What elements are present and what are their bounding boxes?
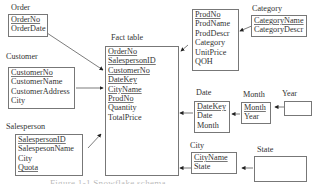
date-field-month: Month: [195, 121, 229, 130]
salesperson-field-salespersonid: SalespersonID: [16, 135, 82, 144]
fact-field-datekey: DateKey: [106, 75, 178, 84]
figure-caption: Figure 1-1 Snowflake schema: [50, 178, 166, 184]
arrow-order-to-fact: [47, 33, 103, 70]
customer-field-customerno: CustomerNo: [9, 68, 74, 77]
fact-field-totalprice: TotalPrice: [106, 113, 178, 122]
order-field-orderno: OrderNo: [9, 15, 47, 24]
fact-field-orderno: OrderNo: [106, 47, 178, 56]
category-field-categorydescr: CategoryDescr: [252, 25, 306, 34]
product-field-proddescr: ProdDescr: [193, 29, 238, 38]
salesperson-title: Salesperson: [6, 122, 45, 131]
order-table: OrderNo OrderDate: [8, 14, 48, 37]
year-title: Year: [282, 89, 297, 98]
category-table: CategoryName CategoryDescr: [251, 15, 307, 37]
month-field-month: Month: [242, 103, 270, 112]
fact-title: Fact table: [111, 33, 143, 42]
fact-field-quantity: Quantity: [106, 103, 178, 112]
product-field-unitprice: UnitPrice: [193, 48, 238, 57]
fact-field-prodno: ProdNo: [106, 94, 178, 103]
city-field-cityname: CityName: [192, 153, 236, 162]
category-title: Category: [252, 4, 282, 13]
salesperson-field-quota: Quota: [16, 163, 82, 172]
year-table: [284, 101, 312, 116]
month-table: Month Year: [241, 102, 271, 124]
salesperson-table: SalespersonID SalespesonName City Quota: [15, 134, 83, 176]
date-field-date: Date: [195, 111, 229, 120]
product-field-prodname: ProdName: [193, 19, 238, 28]
order-title: Order: [11, 3, 30, 12]
city-title: City: [190, 141, 204, 150]
category-field-categoryname: CategoryName: [252, 16, 306, 25]
product-field-qoh: QOH: [193, 57, 238, 66]
product-field-category: Category: [193, 38, 238, 47]
state-title: State: [257, 145, 273, 154]
arrow-product-to-fact: [181, 45, 188, 51]
city-table: CityName State: [191, 152, 237, 174]
city-field-state: State: [192, 162, 236, 171]
product-table: ProdNo ProdName ProdDescr Category UnitP…: [192, 9, 239, 71]
arrow-salesperson-to-fact: [88, 134, 101, 148]
date-title: Date: [196, 88, 211, 97]
fact-field-salespersonid: SalespersonID: [106, 56, 178, 65]
date-table: DateKey Date Month: [194, 101, 230, 133]
customer-field-customeraddress: CustomerAddress: [9, 87, 74, 96]
salesperson-field-city: City: [16, 154, 82, 163]
fact-table: OrderNo SalespersonID CustomerNo DateKey…: [105, 46, 179, 176]
state-table: [254, 156, 307, 182]
customer-field-city: City: [9, 96, 74, 105]
month-field-year: Year: [242, 112, 270, 121]
customer-table: CustomerNo CustomerName CustomerAddress …: [8, 67, 75, 109]
salesperson-field-salespesonname: SalespesonName: [16, 144, 82, 153]
customer-field-customername: CustomerName: [9, 77, 74, 86]
fact-field-customerno: CustomerNo: [106, 66, 178, 75]
date-field-datekey: DateKey: [195, 102, 229, 111]
product-field-prodno: ProdNo: [193, 10, 238, 19]
order-field-orderdate: OrderDate: [9, 24, 47, 33]
customer-title: Customer: [6, 52, 38, 61]
month-title: Month: [243, 90, 265, 99]
fact-field-cityname: CityName: [106, 85, 178, 94]
